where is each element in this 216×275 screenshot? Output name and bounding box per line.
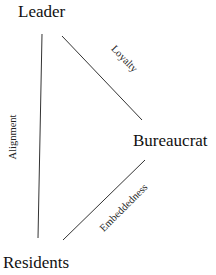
label-embeddedness: Embeddedness (97, 181, 149, 233)
label-alignment: Alignment (7, 114, 18, 159)
edge-alignment (38, 34, 42, 238)
diagram-edges: Loyalty Alignment Embeddedness (0, 0, 216, 275)
label-loyalty: Loyalty (109, 43, 140, 75)
edge-loyalty (62, 36, 142, 120)
